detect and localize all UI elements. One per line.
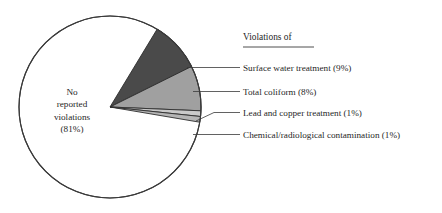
legend-item-chemical-radiological-contamination: Chemical/radiological contamination (1%) bbox=[243, 131, 400, 140]
legend-item-lead-and-copper-treatment: Lead and copper treatment (1%) bbox=[243, 109, 362, 118]
pie-chart-figure: Violations of Surface water treatment (9… bbox=[0, 0, 442, 213]
center-label-line-1: No bbox=[27, 86, 117, 98]
center-label-line-3: violations bbox=[27, 111, 117, 123]
legend-item-surface-water-treatment: Surface water treatment (9%) bbox=[243, 64, 351, 73]
legend-item-total-coliform: Total coliform (8%) bbox=[243, 88, 316, 97]
center-label-line-4: (81%) bbox=[27, 123, 117, 135]
center-label-line-2: reported bbox=[27, 98, 117, 110]
pie-center-label: No reported violations (81%) bbox=[27, 86, 117, 136]
legend-title: Violations of bbox=[243, 33, 292, 42]
